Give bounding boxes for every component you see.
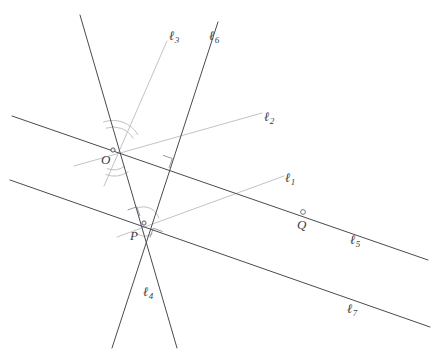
geometry-figure: O P Q ℓ1 ℓ2 ℓ3 ℓ4 ℓ5 ℓ6 ℓ7 bbox=[0, 0, 439, 361]
line-label-l7-glyph: ℓ bbox=[347, 301, 352, 316]
line-label-l3: ℓ3 bbox=[169, 29, 179, 45]
line-label-l5-glyph: ℓ bbox=[350, 232, 355, 247]
point-marker-P bbox=[142, 221, 146, 225]
light-lines-group bbox=[74, 41, 284, 237]
point-label-P: P bbox=[130, 229, 138, 242]
line-label-l3-glyph: ℓ bbox=[169, 28, 174, 43]
line-l6 bbox=[112, 22, 218, 348]
line-label-l2-glyph: ℓ bbox=[264, 109, 269, 124]
line-label-l4-subscript: 4 bbox=[149, 291, 154, 301]
point-label-Q: Q bbox=[297, 218, 306, 231]
dark-lines-group bbox=[10, 15, 430, 348]
line-label-l6: ℓ6 bbox=[209, 29, 219, 45]
point-marker-O bbox=[111, 148, 115, 152]
line-label-l6-subscript: 6 bbox=[215, 35, 220, 45]
line-label-l1-subscript: 1 bbox=[291, 177, 296, 187]
point-markers-group bbox=[111, 148, 306, 225]
line-label-l3-subscript: 3 bbox=[175, 35, 180, 45]
line-label-l4: ℓ4 bbox=[143, 285, 153, 301]
point-marker-Q bbox=[301, 210, 306, 215]
line-label-l7: ℓ7 bbox=[347, 302, 357, 318]
line-label-l5: ℓ5 bbox=[350, 233, 360, 249]
point-label-O: O bbox=[101, 153, 110, 166]
line-label-l6-glyph: ℓ bbox=[209, 28, 214, 43]
line-label-l4-glyph: ℓ bbox=[143, 284, 148, 299]
line-label-l2: ℓ2 bbox=[264, 110, 274, 126]
line-l3 bbox=[104, 41, 167, 186]
line-l5 bbox=[12, 116, 428, 260]
line-label-l5-subscript: 5 bbox=[356, 239, 361, 249]
line-label-l1-glyph: ℓ bbox=[285, 170, 290, 185]
line-label-l1: ℓ1 bbox=[285, 171, 295, 187]
figure-canvas bbox=[0, 0, 439, 361]
line-label-l7-subscript: 7 bbox=[353, 308, 358, 318]
line-l7 bbox=[10, 180, 430, 327]
line-label-l2-subscript: 2 bbox=[270, 116, 275, 126]
